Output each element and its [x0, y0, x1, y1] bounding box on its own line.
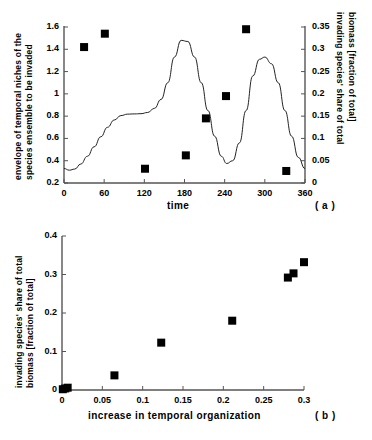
data-point [222, 92, 230, 100]
data-point [242, 25, 250, 33]
panel-a-x-tick: 0 [48, 189, 80, 198]
panel-a-x-tick: 300 [249, 189, 281, 198]
data-point [282, 167, 290, 175]
panel-b-x-tick: 0.3 [286, 396, 322, 405]
data-point [157, 339, 165, 347]
data-point [101, 30, 109, 38]
panel-a-x-tick: 60 [88, 189, 120, 198]
data-point [80, 43, 88, 51]
panel-a-x-tick: 360 [289, 189, 321, 198]
panel-a-right-y-tick: 0.05 [312, 156, 340, 165]
panel-b-x-tick: 0.1 [125, 396, 161, 405]
panel-a: envelope of temporal niches of the speci… [0, 0, 372, 220]
panel-b-y-tick: 0 [26, 385, 57, 394]
panel-b-y-tick: 0.4 [26, 231, 57, 240]
data-point [110, 371, 118, 379]
panel-b-x-tick: 0.15 [165, 396, 201, 405]
panel-a-left-y-tick: 1 [26, 89, 59, 98]
panel-a-left-y-tick: 1.2 [26, 67, 59, 76]
panel-a-left-y-tick: 0.2 [26, 178, 59, 187]
panel-a-right-y-tick: 0.1 [312, 133, 340, 142]
panel-a-right-axis-title-line1: invading species' share of total [335, 12, 345, 145]
panel-a-left-y-tick: 1.6 [26, 22, 59, 31]
panel-b-y-axis-title-line2: biomass [fraction of total] [25, 278, 35, 388]
panel-a-x-tick: 240 [209, 189, 241, 198]
panel-a-right-y-tick: 0.35 [312, 22, 340, 31]
data-point [300, 258, 308, 266]
temporal-organization-scatter [59, 258, 308, 393]
panel-b-x-tick: 0.05 [84, 396, 120, 405]
panel-a-left-axis-title-line1: envelope of temporal niches of the [13, 33, 23, 180]
envelope-curve [64, 40, 305, 170]
panel-a-left-y-tick: 0.4 [26, 156, 59, 165]
panel-a-label: ( a ) [315, 200, 335, 211]
panel-b-x-axis-title: increase in temporal organization [88, 410, 261, 421]
data-point [202, 114, 210, 122]
panel-b-x-tick: 0.25 [246, 396, 282, 405]
panel-b-y-tick: 0.2 [26, 308, 57, 317]
data-point [64, 384, 72, 392]
panel-a-left-y-tick: 0.6 [26, 133, 59, 142]
invading-biomass-scatter [80, 25, 290, 175]
panel-a-right-axis-title-line2: biomass [fraction of total] [347, 12, 357, 122]
panel-a-right-y-tick: 0 [312, 178, 340, 187]
panel-a-x-axis-title: time [167, 200, 189, 211]
data-point [141, 165, 149, 173]
panel-a-right-y-tick: 0.3 [312, 44, 340, 53]
panel-a-x-tick: 120 [128, 189, 160, 198]
panel-a-left-y-tick: 1.4 [26, 44, 59, 53]
panel-a-x-tick: 180 [169, 189, 201, 198]
data-point [228, 317, 236, 325]
panel-b-x-tick: 0.2 [205, 396, 241, 405]
panel-a-right-y-tick: 0.2 [312, 89, 340, 98]
data-point [290, 269, 298, 277]
panel-b-label: ( b ) [315, 410, 336, 421]
panel-b: invading species' share of total biomass… [0, 220, 372, 440]
panel-a-right-y-tick: 0.25 [312, 67, 340, 76]
panel-b-y-tick: 0.3 [26, 270, 57, 279]
data-point [182, 151, 190, 159]
panel-a-right-y-tick: 0.15 [312, 111, 340, 120]
panel-a-left-y-tick: 0.8 [26, 111, 59, 120]
panel-b-y-tick: 0.1 [26, 347, 57, 356]
panel-b-y-axis-title-line1: invading species' share of total [14, 255, 24, 388]
panel-b-x-tick: 0 [44, 396, 80, 405]
panel-b-plot [0, 220, 372, 440]
